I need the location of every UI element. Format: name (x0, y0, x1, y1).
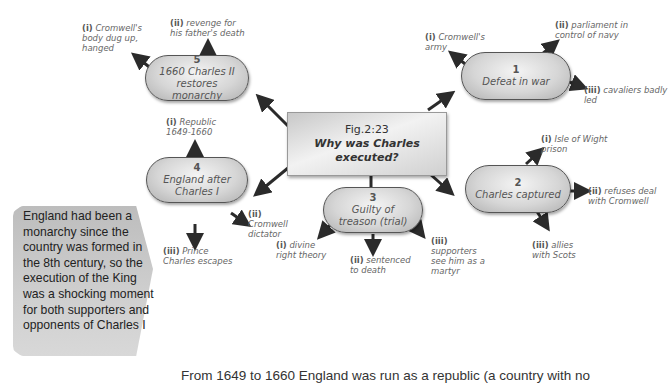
reason-1-i: (i) Cromwell's army (425, 32, 485, 52)
reason-5-ii: (ii) revenge for his father's death (170, 18, 245, 38)
node-title: 1660 Charles II restores monarchy (152, 66, 242, 102)
reason-5-i: (i) Cromwell's body dug up, hanged (82, 23, 142, 53)
central-question-box: Fig.2:23 Why was Charles executed? (287, 112, 447, 176)
arrow-to-node-5 (262, 100, 288, 126)
node-title: Charles captured (475, 189, 561, 201)
node-number: 5 (194, 54, 201, 66)
reason-1-iii: (iii) cavaliers badly led (584, 85, 669, 105)
central-question: Why was Charles executed? (288, 137, 446, 165)
node-title: Guilty of treason (trial) (333, 204, 413, 228)
node-number: 3 (370, 192, 377, 204)
reason-2-i: (i) Isle of Wight prison (541, 134, 611, 154)
reason-2-ii: (ii) refuses deal with Cromwell (588, 186, 668, 206)
reason-3-i: (i) divine right theory (276, 240, 331, 260)
node-guilty-of-treason: 3 Guilty of treason (trial) (323, 187, 423, 233)
reason-1-ii: (ii) parliament in control of navy (555, 20, 640, 40)
node-number: 4 (194, 162, 201, 174)
reason-3-iii: (iii) supporters see him as a martyr (431, 236, 493, 276)
body-text-line: From 1649 to 1660 England was run as a r… (181, 368, 590, 383)
node-charles-ii-restores-monarchy: 5 1660 Charles II restores monarchy (145, 55, 249, 101)
node-charles-captured: 2 Charles captured (465, 165, 571, 213)
reason-3-ii: (ii) sentenced to death (350, 255, 420, 275)
node-title: England after Charles I (147, 174, 247, 198)
node-title: Defeat in war (482, 76, 549, 88)
reason-4-ii: (ii) Cromwell dictator (248, 209, 300, 239)
node-england-after-charles: 4 England after Charles I (146, 157, 248, 203)
context-callout-text: England had been a monarchy since the co… (23, 209, 158, 334)
figure-label: Fig.2:23 (345, 123, 389, 137)
reason-2-iii: (iii) allies with Scots (532, 240, 592, 260)
node-number: 1 (513, 64, 520, 76)
node-number: 2 (515, 177, 522, 189)
reason-4-i: (i) Republic 1649-1660 (166, 117, 221, 137)
node-defeat-in-war: 1 Defeat in war (461, 52, 571, 100)
reason-4-iii: (iii) Prince Charles escapes (163, 246, 238, 266)
